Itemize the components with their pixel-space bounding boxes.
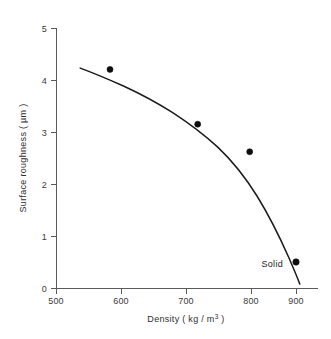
x-tick-label: 800 bbox=[243, 296, 259, 306]
y-tick-label: 2 bbox=[42, 180, 47, 190]
x-tick-label: 600 bbox=[113, 296, 129, 306]
data-point bbox=[293, 259, 299, 265]
data-point bbox=[107, 66, 113, 72]
solid-annotation-label: Solid bbox=[261, 259, 283, 269]
surface-roughness-vs-density-chart: 0 1 2 3 4 5 500 600 700 800 900 Surface … bbox=[0, 0, 331, 339]
y-tick-label: 1 bbox=[42, 232, 47, 242]
y-tick-label: 4 bbox=[42, 76, 47, 86]
y-tick-label: 0 bbox=[42, 284, 47, 294]
y-axis-title: Surface roughness ( µm ) bbox=[18, 104, 28, 213]
x-axis-title-main: Density ( kg / m bbox=[147, 314, 214, 324]
x-axis-title: Density ( kg / m3 ) bbox=[147, 313, 224, 324]
chart-figure: 0 1 2 3 4 5 500 600 700 800 900 Surface … bbox=[0, 0, 331, 339]
x-tick-label: 900 bbox=[288, 296, 304, 306]
data-point bbox=[195, 121, 201, 127]
y-tick-label: 3 bbox=[42, 128, 47, 138]
x-axis-title-close: ) bbox=[219, 314, 225, 324]
data-point bbox=[247, 149, 253, 155]
x-tick-label: 700 bbox=[178, 296, 194, 306]
x-tick-label: 500 bbox=[48, 296, 64, 306]
y-tick-label: 5 bbox=[42, 24, 47, 34]
